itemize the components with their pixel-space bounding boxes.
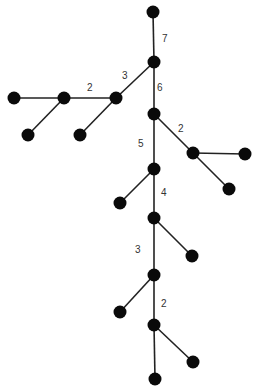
tree-node-n9 [239, 148, 252, 161]
edge-n17-n19 [154, 325, 155, 379]
tree-node-n1 [148, 56, 161, 69]
edge-n13-n14 [154, 218, 192, 256]
edge-weight-label: 4 [161, 187, 167, 198]
tree-node-n16 [114, 306, 127, 319]
tree-node-n10 [223, 183, 236, 196]
edge-weight-label: 2 [87, 82, 93, 93]
tree-node-n8 [187, 147, 200, 160]
edge-weight-label: 2 [161, 298, 167, 309]
edge-label-layer: 732625432 [87, 33, 184, 309]
node-layer [8, 6, 252, 386]
edge-weight-label: 6 [157, 82, 163, 93]
tree-node-n2 [110, 92, 123, 105]
tree-diagram: 732625432 [0, 0, 261, 390]
tree-node-n17 [148, 319, 161, 332]
tree-node-n3 [58, 92, 71, 105]
tree-node-n14 [186, 250, 199, 263]
edge-n3-n5 [28, 98, 64, 135]
tree-node-n19 [149, 373, 162, 386]
tree-node-n7 [148, 108, 161, 121]
tree-node-n12 [114, 197, 127, 210]
edge-weight-label: 5 [138, 138, 144, 149]
edge-weight-label: 7 [162, 33, 168, 44]
tree-node-n11 [148, 163, 161, 176]
edge-n7-n8 [154, 114, 193, 153]
edge-weight-label: 2 [178, 123, 184, 134]
tree-node-n0 [147, 6, 160, 19]
edge-n2-n6 [80, 98, 116, 135]
edge-n11-n12 [120, 169, 154, 203]
tree-node-n13 [148, 212, 161, 225]
edge-weight-label: 3 [135, 244, 141, 255]
tree-node-n4 [8, 92, 21, 105]
edge-n17-n18 [154, 325, 193, 362]
tree-node-n18 [187, 356, 200, 369]
edge-n8-n9 [193, 153, 245, 154]
edge-n0-n1 [153, 12, 154, 62]
tree-node-n6 [74, 129, 87, 142]
tree-node-n15 [148, 269, 161, 282]
tree-node-n5 [22, 129, 35, 142]
edge-weight-label: 3 [122, 70, 128, 81]
edge-n15-n16 [120, 275, 154, 312]
edge-layer [14, 12, 245, 379]
edge-n8-n10 [193, 153, 229, 189]
